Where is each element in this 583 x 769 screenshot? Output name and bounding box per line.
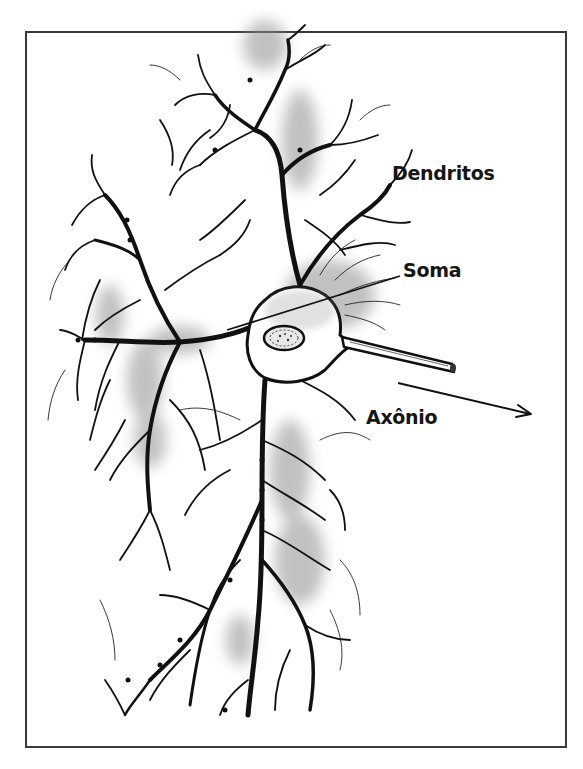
axon [342, 337, 456, 373]
neuron-drawing [0, 0, 583, 769]
spines [48, 45, 400, 670]
trunk-lower [248, 380, 265, 715]
label-soma: Soma [403, 261, 461, 280]
nucleus [264, 326, 304, 350]
label-dendritos: Dendritos [392, 164, 494, 183]
neuron-figure: Dendritos Soma Axônio [0, 0, 583, 769]
fine-dendrites [60, 25, 412, 715]
label-axonio: Axônio [366, 408, 437, 427]
